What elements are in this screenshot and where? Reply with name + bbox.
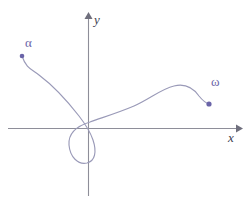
diagram-canvas: α ω y x (0, 0, 249, 209)
alpha-label: α (25, 35, 32, 50)
y-axis-arrowhead (85, 12, 93, 19)
curve-path (22, 56, 209, 163)
x-axis-arrowhead (236, 125, 243, 133)
curve-diagram: α ω y x (0, 0, 249, 209)
alpha-point-marker (20, 54, 25, 59)
omega-label: ω (211, 74, 220, 89)
x-axis-label: x (227, 130, 234, 145)
y-axis-label: y (92, 12, 100, 27)
omega-point-marker (206, 101, 211, 106)
